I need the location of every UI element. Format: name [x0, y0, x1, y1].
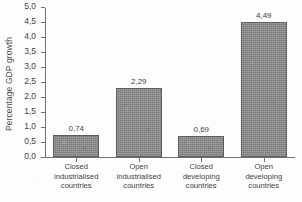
- bar: 0,74: [53, 135, 99, 157]
- x-axis-category-label: Open developing countries: [233, 162, 296, 191]
- y-axis-tick: 5,0: [41, 7, 45, 8]
- plot-area: 0,00,51,01,52,02,53,03,54,04,55,0 0,742,…: [45, 8, 295, 158]
- y-axis-tick-label: 1,0: [24, 121, 36, 132]
- x-axis-category-label: Open industrialised countries: [108, 162, 171, 191]
- y-axis-tick-label: 2,5: [24, 76, 36, 87]
- y-axis-tick-label: 4,0: [24, 31, 36, 42]
- bar-value-label: 2,29: [131, 77, 147, 87]
- y-axis-tick-label: 2,0: [24, 91, 36, 102]
- x-axis-category-label: Closed industrialised countries: [45, 162, 108, 191]
- bar: 4,49: [241, 22, 287, 157]
- x-axis-category-label: Closed developing countries: [170, 162, 233, 191]
- bar-value-label: 4,49: [256, 11, 272, 21]
- bar-value-label: 0,74: [68, 124, 84, 134]
- y-axis-tick-label: 1,5: [24, 106, 36, 117]
- y-axis-line: [45, 8, 46, 158]
- bar: 0,69: [178, 136, 224, 157]
- y-axis-tick-label: 4,5: [24, 16, 36, 27]
- y-axis-title: Percentage GDP growth: [2, 4, 16, 164]
- y-axis-tick-label: 0,5: [24, 136, 36, 147]
- bar-chart-figure: Percentage GDP growth 0,00,51,01,52,02,5…: [0, 0, 302, 202]
- y-axis-tick: 4,0: [41, 37, 45, 38]
- y-axis-tick: 0,0: [41, 157, 45, 158]
- y-axis-tick-label: 0,0: [24, 151, 36, 162]
- y-axis-tick: 1,5: [41, 112, 45, 113]
- y-axis-tick-label: 5,0: [24, 1, 36, 12]
- y-axis-tick-label: 3,5: [24, 46, 36, 57]
- bar: 2,29: [116, 88, 162, 157]
- y-axis-tick-label: 3,0: [24, 61, 36, 72]
- x-axis-line: [45, 157, 295, 158]
- y-axis-tick: 3,5: [41, 52, 45, 53]
- y-axis-tick: 1,0: [41, 127, 45, 128]
- y-axis-tick: 4,5: [41, 22, 45, 23]
- y-axis-tick: 2,5: [41, 82, 45, 83]
- y-axis-tick: 0,5: [41, 142, 45, 143]
- bar-value-label: 0,69: [193, 125, 209, 135]
- y-axis-tick: 3,0: [41, 67, 45, 68]
- y-axis-tick: 2,0: [41, 97, 45, 98]
